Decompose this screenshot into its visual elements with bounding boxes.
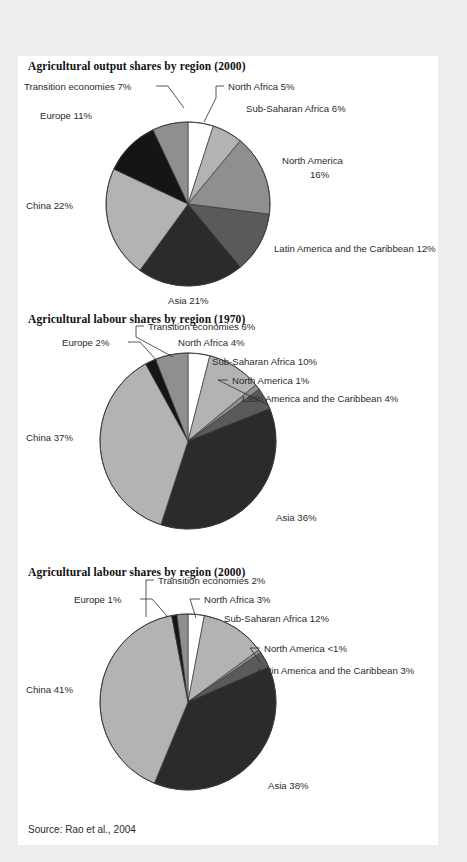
- pie-chart-0: North Africa 5%Sub-Saharan Africa 6%Nort…: [18, 56, 438, 308]
- label-leader-line: [204, 86, 224, 122]
- label-leader-line: [146, 580, 154, 617]
- chart-block-2: Agricultural labour shares by region (20…: [18, 562, 438, 817]
- pie-slice-label: Latin America and the Caribbean 4%: [242, 393, 399, 404]
- pie-slice-label: Sub-Saharan Africa 6%: [246, 103, 346, 114]
- pie-slice-label: Asia 36%: [276, 512, 317, 523]
- pie-slice-label: Asia 38%: [268, 780, 309, 791]
- pie-slice-label: Asia 21%: [168, 295, 209, 306]
- page-background: Agricultural output shares by region (20…: [0, 0, 467, 862]
- pie-slices: North Africa 3%Sub-Saharan Africa 12%Nor…: [100, 614, 276, 790]
- pie-slice-label: Transition economies 6%: [148, 321, 256, 332]
- pie-chart-2: North Africa 3%Sub-Saharan Africa 12%Nor…: [18, 562, 438, 817]
- chart-block-0: Agricultural output shares by region (20…: [18, 56, 438, 308]
- pie-slice-label: 16%: [310, 169, 330, 180]
- source-note: Source: Rao et al., 2004: [28, 824, 136, 835]
- pie-slice-label: Transition economies 7%: [24, 81, 132, 92]
- label-leader-line: [128, 342, 157, 361]
- pie-slice-label: China 41%: [26, 684, 73, 695]
- figure-panel: Agricultural output shares by region (20…: [18, 56, 438, 845]
- pie-slice-label: Europe 2%: [62, 337, 110, 348]
- pie-slice-label: North Africa 4%: [178, 337, 245, 348]
- pie-slice-label: Europe 1%: [74, 594, 122, 605]
- pie-slice-label: North America: [282, 155, 343, 166]
- pie-slice-label: Latin America and the Caribbean 12%: [274, 243, 436, 254]
- pie-slice-label: Latin America and the Caribbean 3%: [258, 665, 415, 676]
- pie-slice-label: Sub-Saharan Africa 10%: [212, 356, 318, 367]
- pie-slice-label: North America 1%: [232, 375, 310, 386]
- pie-slice-label: Transition economies 2%: [158, 575, 266, 586]
- pie-slice-label: Sub-Saharan Africa 12%: [224, 613, 330, 624]
- pie-slice-label: North America <1%: [264, 643, 347, 654]
- pie-slice-label: Europe 11%: [40, 110, 93, 121]
- pie-slices: North Africa 5%Sub-Saharan Africa 6%Nort…: [106, 122, 270, 286]
- pie-slice-label: China 37%: [26, 432, 73, 443]
- label-leader-line: [156, 86, 184, 108]
- label-leader-line: [140, 599, 168, 617]
- pie-slice-label: China 22%: [26, 200, 73, 211]
- chart-block-1: Agricultural labour shares by region (19…: [18, 309, 438, 559]
- pie-chart-1: North Africa 4%Sub-Saharan Africa 10%Nor…: [18, 309, 438, 559]
- pie-slice-label: North Africa 5%: [228, 81, 295, 92]
- pie-slice-label: North Africa 3%: [204, 594, 271, 605]
